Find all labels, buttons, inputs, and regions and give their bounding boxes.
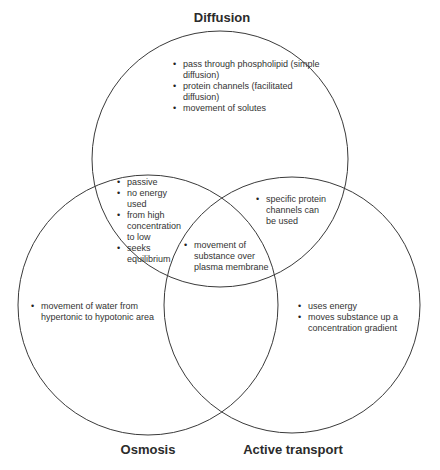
active-transport-title: Active transport	[243, 442, 343, 457]
diffusion-osmosis-region: passive no energy used from high concent…	[117, 177, 189, 265]
list-item: no energy used	[117, 188, 189, 210]
active-only-region: uses energy moves substance up a concent…	[298, 301, 418, 334]
list-item: movement of solutes	[173, 103, 323, 114]
list-item: from high concentration to low	[117, 210, 189, 243]
osmosis-only-region: movement of water from hypertonic to hyp…	[31, 301, 161, 323]
diffusion-active-region: specific protein channels can be used	[256, 194, 330, 227]
list-item: seeks equilibrium	[117, 243, 189, 265]
list-item: passive	[117, 177, 189, 188]
all-three-region: movement of substance over plasma membra…	[184, 240, 270, 273]
list-item: specific protein channels can be used	[256, 194, 330, 227]
diffusion-title: Diffusion	[194, 10, 250, 25]
list-item: pass through phospholipid (simple diffus…	[173, 59, 323, 81]
list-item: uses energy	[298, 301, 418, 312]
osmosis-title: Osmosis	[121, 442, 176, 457]
list-item: movement of substance over plasma membra…	[184, 240, 270, 273]
diffusion-only-region: pass through phospholipid (simple diffus…	[173, 59, 323, 114]
list-item: movement of water from hypertonic to hyp…	[31, 301, 161, 323]
list-item: moves substance up a concentration gradi…	[298, 312, 418, 334]
list-item: protein channels (facilitated diffusion)	[173, 81, 323, 103]
